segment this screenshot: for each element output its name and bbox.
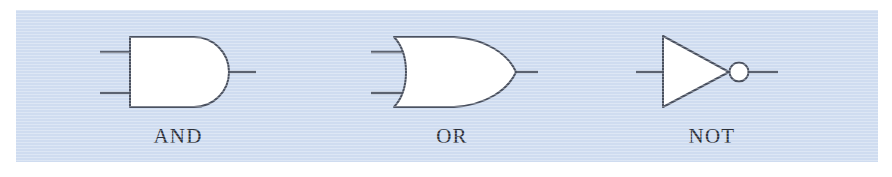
not-gate-triangle bbox=[663, 36, 729, 107]
or-gate-body bbox=[394, 37, 516, 107]
or-gate-symbol bbox=[371, 37, 538, 107]
and-gate-body bbox=[130, 37, 229, 107]
logic-gates-figure: AND OR NOT bbox=[0, 0, 892, 177]
not-gate-label: NOT bbox=[689, 126, 736, 147]
not-gate-symbol bbox=[636, 36, 778, 107]
and-gate-symbol bbox=[100, 37, 256, 107]
not-gate-inverter-bubble bbox=[730, 63, 749, 82]
diagram-panel: AND OR NOT bbox=[16, 10, 878, 162]
and-gate-label: AND bbox=[153, 126, 202, 147]
or-gate-label: OR bbox=[436, 126, 468, 147]
